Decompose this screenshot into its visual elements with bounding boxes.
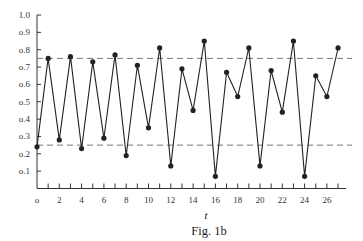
data-point-marker <box>179 66 184 71</box>
axes: o.1o.2o.3o.4o.5o.6o.7o.8o.91.0o246810121… <box>19 10 346 205</box>
y-tick-label: o.6 <box>19 79 31 89</box>
data-point-marker <box>313 73 318 78</box>
data-point-marker <box>269 68 274 73</box>
x-tick-label: 20 <box>256 195 266 205</box>
data-point-marker <box>213 174 218 179</box>
y-tick-label: o.7 <box>19 62 31 72</box>
x-tick-label: 18 <box>233 195 243 205</box>
y-tick-label: o.8 <box>19 45 31 55</box>
data-point-marker <box>280 110 285 115</box>
data-point-marker <box>246 45 251 50</box>
data-point-marker <box>235 94 240 99</box>
data-point-marker <box>34 144 39 149</box>
x-tick-label: o <box>35 195 40 205</box>
x-tick-label: 10 <box>144 195 154 205</box>
data-point-marker <box>291 38 296 43</box>
data-series <box>34 38 340 179</box>
x-tick-label: 14 <box>189 195 199 205</box>
x-tick-label: 12 <box>166 195 175 205</box>
data-point-marker <box>168 163 173 168</box>
data-point-marker <box>146 125 151 130</box>
data-point-marker <box>335 45 340 50</box>
x-tick-label: 4 <box>79 195 84 205</box>
x-tick-label: 8 <box>124 195 129 205</box>
x-tick-label: 2 <box>57 195 62 205</box>
data-point-marker <box>202 38 207 43</box>
x-tick-label: 26 <box>322 195 332 205</box>
x-tick-label: 6 <box>102 195 107 205</box>
data-point-marker <box>112 52 117 57</box>
data-point-marker <box>157 45 162 50</box>
x-tick-label: 16 <box>211 195 221 205</box>
y-tick-label: o.3 <box>19 131 31 141</box>
data-point-marker <box>302 174 307 179</box>
data-point-marker <box>224 70 229 75</box>
series-line <box>37 41 338 176</box>
y-tick-label: o.2 <box>19 149 30 159</box>
x-tick-label: 24 <box>300 195 310 205</box>
data-point-marker <box>135 63 140 68</box>
data-point-marker <box>124 153 129 158</box>
y-tick-label: o.4 <box>19 114 31 124</box>
y-tick-label: 1.0 <box>19 10 31 20</box>
data-point-marker <box>257 163 262 168</box>
x-tick-label: 22 <box>278 195 287 205</box>
y-tick-label: o.9 <box>19 27 31 37</box>
data-point-marker <box>191 108 196 113</box>
y-tick-label: o.5 <box>19 97 31 107</box>
data-point-marker <box>46 56 51 61</box>
y-tick-label: o.1 <box>19 166 30 176</box>
data-point-marker <box>79 146 84 151</box>
x-axis-label: t <box>204 209 208 221</box>
data-point-marker <box>57 137 62 142</box>
data-point-marker <box>324 94 329 99</box>
figure-caption: Fig. 1b <box>191 224 226 238</box>
data-point-marker <box>101 136 106 141</box>
line-chart: o.1o.2o.3o.4o.5o.6o.7o.8o.91.0o246810121… <box>0 0 363 241</box>
data-point-marker <box>90 59 95 64</box>
data-point-marker <box>68 54 73 59</box>
